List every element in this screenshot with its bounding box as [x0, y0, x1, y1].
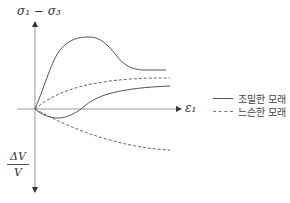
legend: 조밀한 모래 느슨한 모래: [213, 92, 286, 118]
dense-sand-volume-curve: [35, 86, 170, 118]
y-axis-label-volumetric-strain: ΔV V: [7, 150, 29, 179]
solid-line-icon: [213, 98, 233, 99]
loose-sand-volume-curve: [35, 109, 170, 150]
volumetric-strain-numerator: ΔV: [7, 150, 29, 165]
loose-sand-stress-curve: [35, 78, 170, 109]
legend-label: 느슨한 모래: [238, 104, 286, 119]
dashed-line-icon: [213, 111, 233, 112]
legend-item-loose-sand: 느슨한 모래: [213, 105, 286, 118]
volumetric-strain-denominator: V: [7, 165, 29, 179]
dense-sand-stress-curve: [35, 37, 166, 109]
y-axis-label-deviator-stress: σ₁ − σ₃: [17, 4, 61, 18]
x-axis-label-axial-strain: ε₁: [185, 101, 196, 115]
